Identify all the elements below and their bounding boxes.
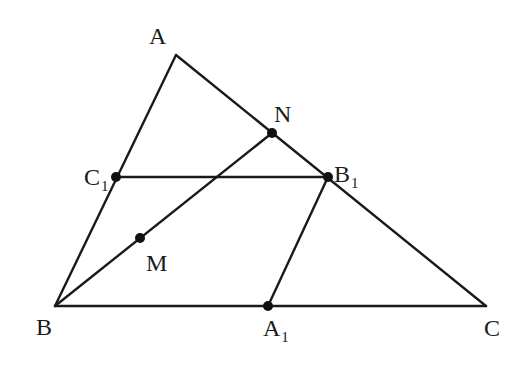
- label-b1-text: B: [334, 161, 350, 187]
- point-b1: [323, 172, 333, 182]
- point-c1: [111, 172, 121, 182]
- label-b1-sub: 1: [351, 175, 359, 191]
- segment-b-n: [55, 133, 272, 306]
- label-c-text: C: [484, 315, 500, 341]
- point-a1: [263, 301, 273, 311]
- label-a: A: [149, 24, 166, 48]
- label-m: M: [146, 251, 167, 275]
- label-a1-text: A: [263, 315, 280, 341]
- geometry-diagram: A N C1 B1 M B A1 C: [0, 0, 531, 369]
- label-a-text: A: [149, 23, 166, 49]
- label-b-text: B: [36, 314, 52, 340]
- label-n-text: N: [274, 101, 291, 127]
- label-c1-sub: 1: [101, 178, 109, 194]
- label-c1: C1: [84, 165, 109, 189]
- point-n: [267, 128, 277, 138]
- label-c1-text: C: [84, 164, 100, 190]
- diagram-canvas: [0, 0, 531, 369]
- label-c: C: [484, 316, 500, 340]
- point-m: [135, 233, 145, 243]
- label-a1-sub: 1: [281, 329, 289, 345]
- segment-b1-a1: [268, 177, 328, 306]
- label-b: B: [36, 315, 52, 339]
- label-a1: A1: [263, 316, 289, 340]
- label-m-text: M: [146, 250, 167, 276]
- label-n: N: [274, 102, 291, 126]
- label-b1: B1: [334, 162, 359, 186]
